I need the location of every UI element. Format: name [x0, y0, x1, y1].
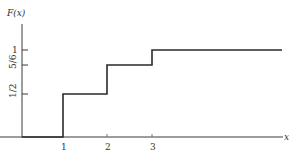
- x-axis-label: x: [284, 132, 289, 142]
- step-function-line: [22, 50, 282, 137]
- x-tick-label-3: 3: [150, 142, 156, 152]
- x-tick-label-1: 1: [61, 142, 67, 152]
- step-function-chart: F(x) x 1 2 3 1 5/6 1/2: [0, 0, 299, 159]
- y-tick-label-1-2: 1/2: [8, 84, 18, 98]
- x-tick-label-2: 2: [105, 142, 111, 152]
- y-tick-label-1: 1: [12, 45, 18, 55]
- y-tick-label-5-6: 5/6: [8, 54, 18, 69]
- y-axis-label: F(x): [6, 8, 26, 18]
